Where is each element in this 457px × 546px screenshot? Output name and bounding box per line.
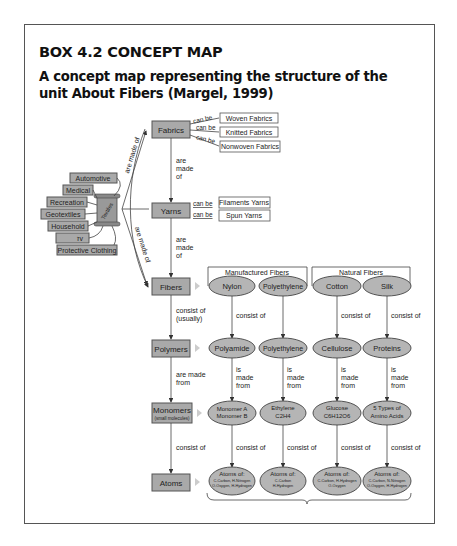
link-label: consist of [236, 312, 266, 319]
atoms-detail: O-Oxygen [328, 484, 345, 488]
link-label: is [236, 366, 242, 373]
atoms-label: Atoms of: [270, 471, 296, 477]
monomer-label: Glucose [326, 405, 349, 411]
link-label: are made of [134, 226, 152, 264]
node-label: Fabrics [158, 126, 184, 135]
group-label-manufactured: Manufactured Fibers [225, 269, 290, 276]
main-column: Fabrics Yarns Fibers Polymers Monomers (… [152, 121, 206, 491]
column-nylon: Nylon consist of Polyamide is made from … [208, 276, 266, 495]
link-label: is [287, 366, 293, 373]
monomer-label: C6H12O6 [324, 413, 351, 419]
link-label: consist of [391, 312, 421, 319]
atoms-detail: O-Oxygen, H-Hydrogen [367, 484, 407, 488]
link-label: can be [192, 113, 213, 124]
link-label: made [341, 374, 359, 381]
link-label: can be [193, 211, 213, 218]
link-label: made [176, 165, 194, 172]
node-label: Yarns [161, 207, 181, 216]
link-label: made [391, 374, 409, 381]
atoms-detail: O-Oxygen, H-Hydrogen [212, 484, 252, 488]
atoms-label: Atoms of: [324, 471, 350, 477]
fiber-label: Silk [381, 282, 393, 291]
polymer-label: Polyethylene [263, 345, 303, 353]
link-label: from [391, 382, 405, 389]
polymer-label: Cellulose [322, 344, 353, 353]
link-label: can be [195, 133, 216, 145]
monomer-label: Monomer B [216, 413, 247, 419]
link-label: from [236, 382, 250, 389]
fabric-types: Woven Fabrics Knitted Fabrics Nonwoven F… [190, 113, 280, 152]
monomer-label: C2H4 [275, 413, 291, 419]
link-label: consist of [176, 444, 206, 451]
yarn-type-label: Spun Yarns [226, 212, 262, 220]
link-label: of [176, 252, 182, 259]
atoms-detail: C-Carbon, N-Nitrogen [369, 479, 406, 483]
monomer-label: 5 Types of [373, 405, 401, 411]
link-label: is [391, 366, 397, 373]
link-label: made [236, 374, 254, 381]
atoms-label: Atoms of: [219, 471, 245, 477]
atoms-label: Atoms of: [374, 471, 400, 477]
link-label: are made of [123, 136, 141, 174]
use-label: Medical [66, 187, 91, 194]
column-polyethylene: Polyethylene Polyethylene is made from E… [259, 276, 317, 495]
use-label: Automotive [75, 175, 110, 182]
fiber-label: Polyethylene [263, 283, 303, 291]
link-label: are made [176, 371, 206, 378]
column-silk: Silk consist of Proteins is made from 5 … [363, 276, 421, 495]
yarn-type-label: Filaments Yarns [219, 199, 269, 206]
monomer-label: Amino Acids [370, 413, 403, 419]
monomer-label: Ethylene [271, 405, 295, 411]
fiber-label: Nylon [222, 282, 241, 291]
column-cotton: Cotton consist of Cellulose is made from… [313, 276, 371, 495]
link-label: are [176, 157, 186, 164]
node-label: Monomers [153, 406, 191, 415]
link-label: (usually) [176, 315, 202, 323]
uses-cluster: Automotive Medical Recreation Geotextile… [41, 173, 120, 255]
polymer-label: Proteins [373, 344, 401, 353]
link-label: from [176, 379, 190, 386]
link-label: made [287, 374, 305, 381]
link-label: consist of [236, 444, 266, 451]
fabric-type-label: Woven Fabrics [226, 115, 273, 122]
node-label: Atoms [160, 479, 183, 488]
use-label: Household [51, 223, 85, 230]
atoms-detail: C-Carbon, H-Nitrogen [214, 479, 251, 483]
link-label: are [176, 236, 186, 243]
atoms-detail: C-Carbon [275, 479, 291, 483]
concept-map-diagram: Automotive Medical Recreation Geotextile… [0, 0, 457, 546]
link-label: consist of [287, 444, 317, 451]
fabric-type-label: Nonwoven Fabrics [221, 143, 279, 150]
monomer-label: Monomer A [217, 406, 248, 412]
atoms-detail: H-Hydrogen [273, 484, 293, 488]
use-other [56, 233, 89, 243]
fiber-label: Cotton [326, 282, 348, 291]
use-label: Recreation [50, 199, 84, 206]
link-label: is [341, 366, 347, 373]
link-label: can be [196, 124, 216, 131]
link-label: consist of [391, 444, 421, 451]
link-label: of [176, 173, 182, 180]
link-label: from [287, 382, 301, 389]
node-label: Polymers [154, 345, 187, 354]
fabric-type-label: Knitted Fabrics [226, 129, 273, 136]
link-label: consist of [341, 444, 371, 451]
yarn-types: Filaments Yarns Spun Yarns can be can be [193, 197, 270, 221]
atoms-detail: C-Carbon, H-Hydrogen [317, 479, 356, 483]
polymer-label: Polyamide [214, 344, 249, 353]
link-label: consist of [341, 312, 371, 319]
group-label-natural: Natural Fibers [339, 269, 383, 276]
use-label: Protective Clothing [58, 247, 117, 255]
use-label: Geotextiles [45, 211, 81, 218]
link-label: can be [193, 200, 213, 207]
link-label: consist of [176, 307, 206, 314]
node-label: Fibers [160, 283, 182, 292]
link-label: made [176, 244, 194, 251]
link-label: from [341, 382, 355, 389]
use-label: זv [77, 235, 83, 242]
node-sublabel: (small molecules) [154, 416, 190, 421]
